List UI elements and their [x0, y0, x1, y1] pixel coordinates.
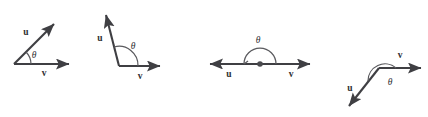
vertex-point	[257, 61, 263, 67]
angle-theta-label: θ	[32, 50, 37, 60]
angle-theta-label: θ	[388, 77, 393, 87]
vector-angle-figure: u v θ u v θ u v θ u	[0, 0, 428, 117]
vector-u-label: u	[226, 69, 232, 79]
diagram-acute-angle: u v θ	[14, 24, 69, 78]
vector-u-shaft	[349, 68, 379, 106]
angle-theta-label: θ	[131, 41, 136, 51]
vector-u-label: u	[97, 33, 103, 43]
vector-v-label: v	[289, 69, 294, 79]
vector-u-label: u	[23, 27, 29, 37]
vector-v-label: v	[398, 50, 403, 60]
vector-u-label: u	[347, 83, 353, 93]
diagram-straight-angle: u v θ	[210, 35, 310, 79]
diagram-obtuse-angle: u v θ	[97, 15, 160, 81]
diagram-downward-obtuse-angle: u v θ	[347, 50, 421, 106]
vector-u-shaft	[106, 15, 119, 66]
diagram-canvas: u v θ u v θ u v θ u	[0, 0, 428, 117]
angle-arc	[26, 52, 31, 64]
vector-v-label: v	[138, 71, 143, 81]
vector-v-label: v	[42, 68, 47, 78]
angle-theta-label: θ	[256, 35, 261, 45]
